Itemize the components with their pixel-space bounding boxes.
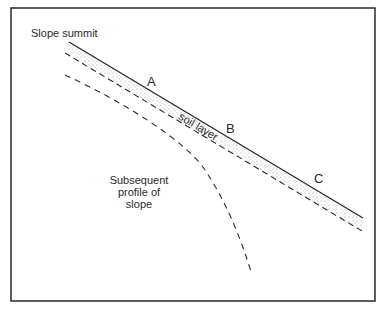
point-c-label: C xyxy=(314,172,323,185)
point-b-label: B xyxy=(226,122,235,135)
slope-summit-label: Slope summit xyxy=(31,27,98,39)
subsequent-profile-line-1: Subsequent xyxy=(104,174,174,186)
subsequent-profile-line-3: slope xyxy=(104,198,174,210)
subsequent-profile-label: Subsequent profile of slope xyxy=(104,174,174,210)
diagram-frame xyxy=(11,8,375,301)
point-a-label: A xyxy=(147,75,156,88)
slope-diagram xyxy=(0,0,390,311)
subsequent-profile-line-2: profile of xyxy=(104,186,174,198)
